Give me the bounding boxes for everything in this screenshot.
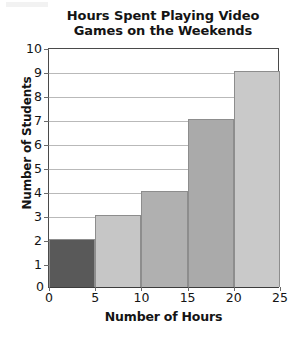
bar-15-20 (188, 119, 234, 287)
chart-title-line-2: Games on the Weekends (38, 23, 288, 38)
y-axis-tick-label: 4 (34, 187, 42, 200)
x-axis-tick-label: 0 (45, 292, 53, 305)
y-axis-tick-label: 5 (34, 163, 42, 176)
y-tick-mark (44, 49, 49, 50)
y-axis-tick-label: 3 (34, 211, 42, 224)
y-axis-tick-label-origin: 0 (36, 281, 44, 294)
y-axis-tick-label: 8 (34, 91, 42, 104)
chart-title-line-1: Hours Spent Playing Video (38, 8, 288, 23)
y-tick-mark (44, 265, 49, 266)
y-axis-tick-label: 10 (26, 43, 42, 56)
y-tick-mark (44, 121, 49, 122)
x-axis-tick-label: 10 (133, 292, 149, 305)
bar-20-25 (234, 71, 280, 287)
y-tick-mark (44, 169, 49, 170)
y-axis-title: Number of Students (20, 53, 34, 233)
bar-0-5 (49, 239, 95, 287)
plot-area: 12345678910 0510152025 (48, 48, 279, 288)
y-axis-tick-label: 6 (34, 139, 42, 152)
y-tick-mark (44, 241, 49, 242)
x-axis-title: Number of Hours (48, 309, 279, 324)
histogram-figure: Hours Spent Playing Video Games on the W… (0, 0, 301, 344)
x-axis-tick-label: 20 (226, 292, 242, 305)
scan-artifact (6, 2, 48, 7)
x-axis-tick-label: 15 (180, 292, 196, 305)
y-tick-mark (44, 217, 49, 218)
y-tick-mark (44, 193, 49, 194)
y-tick-mark (44, 145, 49, 146)
y-axis-tick-label: 9 (34, 67, 42, 80)
chart-title: Hours Spent Playing Video Games on the W… (38, 8, 288, 38)
x-axis-tick-label: 25 (272, 292, 288, 305)
bar-10-15 (141, 191, 187, 287)
bar-5-10 (95, 215, 141, 287)
y-tick-mark (44, 73, 49, 74)
y-axis-tick-label: 2 (34, 235, 42, 248)
y-axis-tick-label: 7 (34, 115, 42, 128)
y-tick-mark (44, 97, 49, 98)
y-axis-tick-label: 1 (34, 259, 42, 272)
x-axis-tick-label: 5 (91, 292, 99, 305)
